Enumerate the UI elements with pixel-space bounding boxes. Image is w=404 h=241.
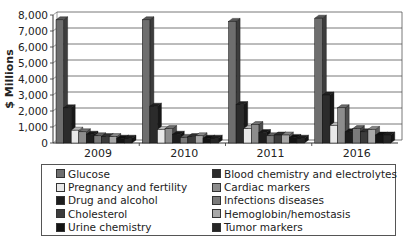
bar [157, 129, 165, 143]
bar [109, 137, 117, 143]
y-tick-label: 6,000 [18, 41, 48, 53]
bar [102, 137, 110, 143]
bar [195, 136, 203, 143]
legend-item-drug: Drug and alcohol [56, 194, 187, 207]
bar [142, 20, 150, 143]
bar [383, 135, 391, 143]
bar [289, 137, 297, 143]
bar [368, 129, 376, 143]
bar [94, 136, 102, 143]
bar [376, 135, 384, 143]
bar [267, 136, 275, 143]
swatch-icon [212, 183, 221, 192]
bar [251, 125, 259, 143]
legend-item-cholesterol: Cholesterol [56, 207, 187, 220]
y-tick-label: 8,000 [18, 9, 48, 21]
swatch-icon [56, 209, 65, 218]
legend-item-glucose: Glucose [56, 167, 187, 180]
chart-legend: Glucose Pregnancy and fertility Drug and… [41, 164, 396, 236]
bar [203, 138, 211, 143]
bar [338, 108, 346, 143]
bar [353, 129, 361, 143]
legend-item-infections: Infections diseases [212, 194, 397, 207]
bar [244, 129, 252, 143]
legend-column-left: Glucose Pregnancy and fertility Drug and… [56, 167, 187, 234]
bar [229, 21, 237, 143]
bar [236, 105, 244, 143]
swatch-icon [56, 183, 65, 192]
x-tick-label: 2011 [257, 147, 285, 160]
bar [56, 20, 64, 143]
legend-column-right: Blood chemistry and electrolytes Cardiac… [212, 167, 397, 234]
bar [71, 130, 79, 143]
x-tick-label: 2009 [84, 147, 112, 160]
bar [297, 138, 305, 143]
bar [274, 135, 282, 143]
bar [165, 129, 173, 143]
legend-item-pregnancy: Pregnancy and fertility [56, 180, 187, 193]
bar [330, 125, 338, 143]
x-tick-label: 2010 [170, 147, 198, 160]
bar [180, 137, 188, 143]
bar [360, 132, 368, 143]
x-tick-label: 2016 [343, 147, 371, 160]
legend-item-cardiac: Cardiac markers [212, 180, 397, 193]
swatch-icon [56, 169, 65, 178]
swatch-icon [212, 223, 221, 232]
legend-item-blood-chemistry: Blood chemistry and electrolytes [212, 167, 397, 180]
swatch-icon [212, 209, 221, 218]
bar [188, 137, 196, 143]
y-tick-label: 1,000 [18, 121, 48, 133]
y-tick-label: 2,000 [18, 105, 48, 117]
bar [322, 95, 330, 143]
legend-item-hemoglobin: Hemoglobin/hemostasis [212, 207, 397, 220]
bar [345, 132, 353, 143]
bar [282, 135, 290, 143]
bar [117, 138, 125, 143]
legend-item-urine: Urine chemistry [56, 221, 187, 234]
swatch-icon [212, 169, 221, 178]
y-tick-label: 0 [41, 137, 48, 149]
bar [79, 132, 87, 143]
swatch-icon [56, 223, 65, 232]
bar [64, 108, 72, 143]
bar [86, 134, 94, 143]
bar-chart: 01,0002,0003,0004,0005,0006,0007,0008,00… [0, 0, 404, 160]
bar [173, 134, 181, 143]
y-axis-label: $ Millions [3, 49, 16, 109]
bar [211, 138, 219, 143]
y-tick-label: 7,000 [18, 25, 48, 37]
bar [150, 106, 158, 143]
swatch-icon [212, 196, 221, 205]
bar [315, 18, 323, 143]
swatch-icon [56, 196, 65, 205]
y-tick-label: 5,000 [18, 57, 48, 69]
bar [259, 133, 267, 143]
y-tick-label: 3,000 [18, 89, 48, 101]
legend-item-tumor: Tumor markers [212, 221, 397, 234]
y-tick-label: 4,000 [18, 73, 48, 85]
bar [124, 138, 132, 143]
